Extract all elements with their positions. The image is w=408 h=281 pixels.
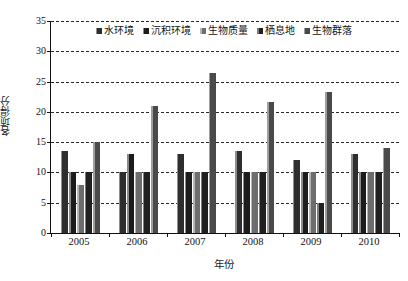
bar-生物群落-2008[interactable] bbox=[267, 102, 274, 233]
bar-水环境-2006[interactable] bbox=[119, 172, 126, 233]
bar-沉积环境-2008[interactable] bbox=[243, 172, 250, 233]
bar-group-2007 bbox=[167, 21, 225, 233]
bar-生物质量-2008[interactable] bbox=[251, 172, 258, 233]
bar-栖息地-2008[interactable] bbox=[259, 172, 266, 233]
bar-栖息地-2010[interactable] bbox=[375, 172, 382, 233]
bar-生物质量-2005[interactable] bbox=[77, 185, 84, 233]
x-label-2009: 2009 bbox=[282, 236, 340, 247]
bar-水环境-2007[interactable] bbox=[177, 154, 184, 233]
bar-group-2006 bbox=[109, 21, 167, 233]
x-label-2007: 2007 bbox=[166, 236, 224, 247]
y-tick-label: 15 bbox=[22, 137, 46, 147]
bar-生物群落-2006[interactable] bbox=[151, 106, 158, 233]
bar-生物群落-2007[interactable] bbox=[209, 73, 216, 234]
y-axis-title: 各项得分 bbox=[0, 96, 14, 136]
y-tick-label: 20 bbox=[22, 107, 46, 117]
bar-水环境-2005[interactable] bbox=[61, 151, 68, 233]
x-label-2005: 2005 bbox=[50, 236, 108, 247]
y-tick-0: 0 bbox=[22, 233, 46, 243]
y-tick-label: 5 bbox=[22, 198, 46, 208]
bar-栖息地-2006[interactable] bbox=[143, 172, 150, 233]
x-label-2006: 2006 bbox=[108, 236, 166, 247]
bar-生物群落-2005[interactable] bbox=[93, 142, 100, 233]
plot-area bbox=[50, 21, 399, 234]
x-tick bbox=[399, 233, 400, 237]
x-label-2010: 2010 bbox=[340, 236, 398, 247]
bar-栖息地-2005[interactable] bbox=[85, 172, 92, 233]
bar-水环境-2009[interactable] bbox=[293, 160, 300, 233]
bar-沉积环境-2007[interactable] bbox=[185, 172, 192, 233]
y-tick-30: 30 bbox=[22, 51, 46, 61]
bar-group-2010 bbox=[341, 21, 399, 233]
bar-group-2009 bbox=[283, 21, 341, 233]
bar-group-2008 bbox=[225, 21, 283, 233]
bar-生物质量-2006[interactable] bbox=[135, 172, 142, 233]
bar-生物质量-2009[interactable] bbox=[309, 172, 316, 233]
y-tick-25: 25 bbox=[22, 82, 46, 92]
bar-生物质量-2010[interactable] bbox=[367, 172, 374, 233]
bar-groups bbox=[51, 21, 399, 233]
x-axis-labels: 200520062007200820092010 bbox=[50, 236, 398, 247]
bar-水环境-2008[interactable] bbox=[235, 151, 242, 233]
bar-水环境-2010[interactable] bbox=[351, 154, 358, 233]
bar-栖息地-2009[interactable] bbox=[317, 203, 324, 233]
bar-沉积环境-2006[interactable] bbox=[127, 154, 134, 233]
y-tick-label: 30 bbox=[22, 46, 46, 56]
x-label-2008: 2008 bbox=[224, 236, 282, 247]
y-tick-5: 5 bbox=[22, 203, 46, 213]
y-tick-label: 25 bbox=[22, 77, 46, 87]
bar-生物群落-2010[interactable] bbox=[383, 148, 390, 233]
bar-生物质量-2007[interactable] bbox=[193, 172, 200, 233]
bar-group-2005 bbox=[51, 21, 109, 233]
y-axis-ticks: 05101520253035 bbox=[22, 0, 46, 281]
y-tick-label: 10 bbox=[22, 167, 46, 177]
bar-chart: 各项得分 05101520253035 水环境沉积环境生物质量栖息地生物群落 2… bbox=[0, 0, 408, 281]
bar-沉积环境-2005[interactable] bbox=[69, 172, 76, 233]
y-tick-10: 10 bbox=[22, 172, 46, 182]
bar-生物群落-2009[interactable] bbox=[325, 92, 332, 233]
y-tick-label: 35 bbox=[22, 16, 46, 26]
y-tick-20: 20 bbox=[22, 112, 46, 122]
bar-沉积环境-2010[interactable] bbox=[359, 172, 366, 233]
bar-沉积环境-2009[interactable] bbox=[301, 172, 308, 233]
y-tick-35: 35 bbox=[22, 21, 46, 31]
y-tick-15: 15 bbox=[22, 142, 46, 152]
bar-栖息地-2007[interactable] bbox=[201, 172, 208, 233]
y-tick-label: 0 bbox=[22, 228, 46, 238]
x-axis-title: 年份 bbox=[50, 256, 398, 271]
